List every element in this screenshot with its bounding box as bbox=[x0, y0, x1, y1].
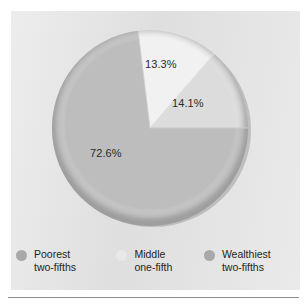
legend-label-wealthiest-line1: Wealthiest bbox=[222, 248, 271, 261]
figure-root: 13.3% 14.1% 72.6% Poorest two-fifths Mid… bbox=[0, 0, 307, 308]
legend-swatch-poorest-icon bbox=[16, 250, 27, 261]
legend-swatch-middle-icon bbox=[116, 250, 127, 261]
legend-label-poorest-line2: two-fifths bbox=[34, 261, 76, 274]
legend-label-wealthiest: Wealthiest two-fifths bbox=[222, 248, 271, 273]
legend-swatch-wealthiest-icon bbox=[204, 250, 215, 261]
pie-label-middle-one-fifth: 13.3% bbox=[145, 58, 177, 70]
legend-item-poorest-two-fifths[interactable]: Poorest two-fifths bbox=[16, 248, 102, 273]
legend-item-wealthiest-two-fifths[interactable]: Wealthiest two-fifths bbox=[204, 248, 286, 273]
legend-item-middle-one-fifth[interactable]: Middle one-fifth bbox=[116, 248, 189, 273]
legend-label-middle-line2: one-fifth bbox=[134, 261, 172, 274]
legend-label-wealthiest-line2: two-fifths bbox=[222, 261, 271, 274]
legend-label-poorest-line1: Poorest bbox=[34, 248, 76, 261]
legend-label-middle-line1: Middle bbox=[134, 248, 172, 261]
legend-label-poorest: Poorest two-fifths bbox=[34, 248, 76, 273]
legend-label-middle: Middle one-fifth bbox=[134, 248, 172, 273]
pie-label-wealthiest-two-fifths: 14.1% bbox=[172, 97, 204, 109]
chart-legend: Poorest two-fifths Middle one-fifth Weal… bbox=[16, 248, 286, 273]
figure-bottom-rule bbox=[8, 297, 299, 298]
pie-label-poorest-two-fifths: 72.6% bbox=[90, 147, 122, 159]
